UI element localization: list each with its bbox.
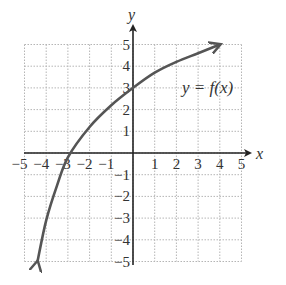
- x-tick-label: −4: [33, 156, 49, 172]
- y-tick-label: 5: [123, 37, 131, 53]
- y-tick-label: −2: [114, 188, 130, 204]
- x-axis-label: x: [255, 145, 263, 162]
- x-tick-label: 1: [151, 156, 159, 172]
- y-tick-label: −4: [114, 232, 130, 248]
- x-tick-label: 3: [194, 156, 202, 172]
- function-label: y = f(x): [180, 78, 233, 97]
- function-graph: x y −5−4−3−2−112345 −5−4−3−2−112345 y = …: [0, 0, 286, 285]
- y-tick-label: −1: [114, 167, 130, 183]
- x-tick-label: 5: [238, 156, 246, 172]
- x-tick-label: −2: [77, 156, 93, 172]
- x-tick-label: 2: [173, 156, 181, 172]
- y-tick-label: 4: [123, 58, 131, 74]
- y-tick-label: −3: [114, 210, 130, 226]
- y-tick-label: 2: [123, 102, 131, 118]
- x-tick-label: 4: [216, 156, 224, 172]
- y-axis-label: y: [126, 6, 136, 24]
- x-tick-label: −5: [12, 156, 28, 172]
- x-tick-label: −1: [98, 156, 114, 172]
- y-tick-label: −5: [114, 254, 130, 270]
- y-tick-label: 1: [123, 123, 131, 139]
